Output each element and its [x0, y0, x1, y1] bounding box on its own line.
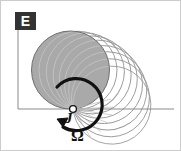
precession-rate-label: Ω	[71, 128, 84, 144]
figure-panel: E J Ω	[0, 0, 181, 151]
panel-label: E	[15, 12, 36, 30]
angular-momentum-label: J	[65, 111, 73, 126]
